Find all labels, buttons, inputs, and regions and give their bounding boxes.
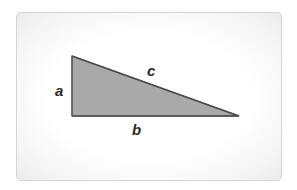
- label-side-c: c: [147, 63, 155, 78]
- label-side-b: b: [132, 122, 141, 137]
- right-triangle: [0, 0, 297, 190]
- label-side-a: a: [55, 83, 63, 98]
